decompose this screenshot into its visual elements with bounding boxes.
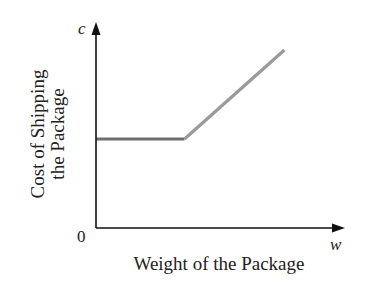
series-layer (96, 50, 284, 139)
y-axis-title-line-2: the Package (47, 88, 68, 179)
x-axis-title: Weight of the Package (134, 253, 305, 274)
y-axis-title-line-1: Cost of Shipping (27, 69, 48, 198)
origin-label: 0 (77, 227, 86, 246)
y-axis-variable: c (78, 19, 86, 38)
series-line-increasing (185, 50, 285, 139)
y-axis-arrow-icon (92, 22, 101, 35)
x-axis-arrow-icon (332, 224, 345, 233)
x-axis-variable: w (330, 235, 342, 254)
chart-canvas: c w 0 Weight of the Package Cost of Ship… (0, 0, 365, 290)
